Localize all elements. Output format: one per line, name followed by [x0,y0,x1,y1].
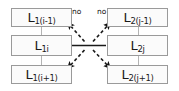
node-L2j-plus-1[interactable]: L2(j+1) [107,65,168,84]
node-label-L2j-minus-1: L2(j-1) [123,11,151,24]
node-label-L1i-plus-1: L1(i+1) [25,68,57,81]
node-L2j[interactable]: L2j [107,35,168,56]
node-label-L1i: L1i [34,39,48,52]
node-L1i[interactable]: L1i [11,35,72,56]
node-label-L2j: L2j [130,39,144,52]
node-L1i-plus-1[interactable]: L1(i+1) [11,65,72,84]
edge-label-no-right: no [97,8,106,16]
diagram-canvas: L1(i-1) L1i L1(i+1) L2(j-1) L2j L2(j+1) … [0,0,179,91]
node-label-L2j-plus-1: L2(j+1) [121,68,153,81]
node-L2j-minus-1[interactable]: L2(j-1) [107,8,168,27]
node-label-L1i-minus-1: L1(i-1) [27,11,55,24]
node-L1i-minus-1[interactable]: L1(i-1) [11,8,72,27]
edge-label-no-left: no [72,8,81,16]
